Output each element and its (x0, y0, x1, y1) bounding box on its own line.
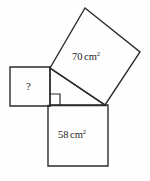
adjacent-square-area-exponent: 2 (83, 128, 86, 135)
hypotenuse-square-area-exponent: 2 (97, 50, 100, 57)
hypotenuse-square-area-label: 70cm2 (72, 52, 100, 63)
hypotenuse-square-area-value: 70 (72, 51, 83, 62)
hypotenuse-square-area-unit: cm (84, 51, 97, 62)
adjacent-square-area-value: 58 (58, 129, 69, 140)
adjacent-square-area-label: 58cm2 (58, 130, 86, 141)
unknown-square-area-value: ? (26, 80, 31, 92)
figure-canvas: 70cm2 58cm2 ? (0, 0, 150, 181)
unknown-square-area-label: ? (26, 81, 31, 92)
pythagorean-squares-svg (0, 0, 150, 181)
adjacent-square-area-unit: cm (70, 129, 83, 140)
